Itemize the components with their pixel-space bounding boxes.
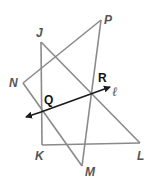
line-l bbox=[26, 112, 41, 117]
segment-np bbox=[23, 20, 101, 83]
label-l: L bbox=[137, 149, 144, 163]
label-q: Q bbox=[44, 93, 53, 107]
label-n: N bbox=[9, 76, 18, 90]
geometry-diagram: J P N R Q ℓ K L M bbox=[0, 0, 153, 180]
label-m: M bbox=[85, 165, 96, 179]
label-line-l: ℓ bbox=[112, 84, 118, 99]
label-p: P bbox=[104, 13, 113, 27]
label-k: K bbox=[35, 149, 45, 163]
segment-jk bbox=[41, 42, 42, 145]
segment-kl bbox=[42, 143, 140, 145]
label-r: R bbox=[98, 71, 107, 85]
label-j: J bbox=[36, 26, 43, 40]
